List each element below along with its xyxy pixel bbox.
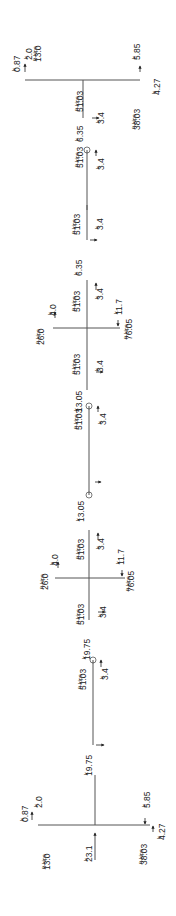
unit-label: ft-kips (123, 324, 129, 339)
unit-label: ft-kips (125, 576, 131, 591)
unit-label: ft-kips (71, 359, 77, 374)
unit-label: ft-kips (71, 219, 77, 234)
unit-label: k (33, 804, 39, 807)
unit-label: ft-kips (74, 96, 80, 111)
unit-label: k (156, 836, 162, 839)
unit-label: k (151, 91, 157, 94)
unit-label: k (99, 676, 105, 679)
unit-label: ft-kips (75, 609, 81, 624)
unit-label: ft-kips (138, 849, 144, 864)
unit-label: ft-kips (41, 854, 47, 869)
free-body-diagram: 0.87k 2.0k 13.0ft-kips 5.85k 4.27k 38.03… (0, 0, 176, 916)
girder-segment-1 (84, 147, 96, 210)
unit-label: k (115, 561, 121, 564)
unit-label: ft-kips (131, 114, 137, 129)
interior-joint-2-body (55, 530, 125, 620)
unit-label: k (97, 421, 103, 424)
unit-label: ft-kips (35, 329, 41, 344)
unit-label: k (49, 562, 55, 565)
unit-label: ft-kips (77, 674, 83, 689)
unit-label: k (113, 311, 119, 314)
unit-label: k (131, 56, 137, 59)
unit-label: k (75, 518, 81, 521)
unit-label: k (97, 614, 103, 617)
unit-label: k (94, 296, 100, 299)
unit-label: k (95, 166, 101, 169)
unit-label: k (83, 772, 89, 775)
unit-label: ft-kips (71, 296, 77, 311)
unit-label: k (94, 226, 100, 229)
unit-label: ft-kips (32, 46, 38, 61)
unit-label: k (83, 858, 89, 861)
unit-label: k (95, 546, 101, 549)
unit-label: k (19, 818, 25, 821)
unit-label: ft-kips (74, 152, 80, 167)
unit-label: k (23, 56, 29, 59)
unit-label: k (141, 804, 147, 807)
unit-label: ft-kips (39, 574, 45, 589)
unit-label: k (73, 272, 79, 275)
unit-label: k (47, 312, 53, 315)
unit-label: k (81, 656, 87, 659)
unit-label: ft-kips (73, 414, 79, 429)
unit-label: k (94, 368, 100, 371)
interior-joint-1-body (53, 280, 120, 390)
unit-label: k (74, 138, 80, 141)
unit-label: k (95, 120, 101, 123)
unit-label: ft-kips (75, 544, 81, 559)
unit-label: k (11, 68, 17, 71)
